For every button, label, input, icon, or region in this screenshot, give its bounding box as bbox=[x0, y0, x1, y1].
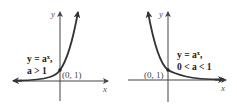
function-label-base: y = a bbox=[177, 50, 197, 60]
function-label-base: y = a bbox=[27, 54, 47, 64]
intercept-label: (0, 1) bbox=[144, 70, 164, 80]
graph-decay: y x (0, 1) y = ax, 0 < a < 1 bbox=[128, 9, 226, 102]
function-label: y = ax, bbox=[27, 53, 53, 64]
intercept-label: (0, 1) bbox=[62, 70, 82, 80]
y-axis-label: y bbox=[50, 9, 55, 19]
function-label: y = ax, bbox=[177, 49, 203, 60]
y-axis-label: y bbox=[158, 9, 163, 19]
exponential-graphs: y x (0, 1) y = ax, a > 1 y x (0, 1) y = … bbox=[0, 0, 237, 108]
function-label-comma: , bbox=[50, 54, 53, 64]
intercept-point bbox=[166, 68, 169, 71]
x-axis-label: x bbox=[220, 83, 225, 93]
x-axis-label: x bbox=[102, 84, 107, 94]
function-label-comma: , bbox=[200, 50, 203, 60]
base-condition-label: a > 1 bbox=[27, 66, 47, 76]
graph-growth: y x (0, 1) y = ax, a > 1 bbox=[13, 9, 108, 101]
base-condition-label: 0 < a < 1 bbox=[177, 62, 212, 72]
